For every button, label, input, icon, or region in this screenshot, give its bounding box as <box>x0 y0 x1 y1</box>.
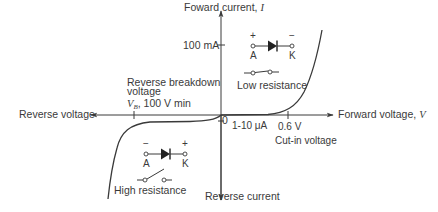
origin-label: 0 <box>222 115 228 126</box>
breakdown-label-line2: voltage <box>127 86 161 97</box>
forward-diode-symbol <box>251 41 294 52</box>
forward-anode-polarity: + <box>250 30 256 41</box>
cut-in-voltage-label: Cut-in voltage <box>275 135 337 146</box>
forward-voltage-label: Forward voltage, V <box>338 109 426 120</box>
reverse-anode-polarity: − <box>143 138 149 149</box>
reverse-cathode-label: K <box>182 158 189 169</box>
reverse-current-label: Reverse current <box>205 191 280 202</box>
reverse-diode-symbol <box>144 149 187 160</box>
cut-in-value-label: 0.6 V <box>278 121 301 132</box>
breakdown-value-label: VB, 100 V min <box>127 98 191 113</box>
breakdown-value: , 100 V min <box>138 97 191 109</box>
diode-iv-diagram: Foward current, I Reverse current Revers… <box>0 0 438 212</box>
current-symbol: I <box>260 2 264 13</box>
forward-current-label: Foward current, I <box>184 2 264 13</box>
voltage-symbol: V <box>419 109 425 120</box>
open-switch-icon <box>137 169 172 182</box>
forward-voltage-text: Forward voltage, <box>338 108 416 120</box>
forward-anode-label: A <box>250 50 257 61</box>
iv-graph <box>0 0 438 212</box>
forward-cathode-polarity: − <box>289 30 295 41</box>
reverse-cathode-polarity: + <box>182 138 188 149</box>
reverse-voltage-label: Reverse voltage <box>19 109 95 120</box>
closed-switch-icon <box>244 70 279 75</box>
leakage-current-label: 1-10 μA <box>232 120 267 131</box>
reverse-anode-label: A <box>143 158 150 169</box>
high-resistance-label: High resistance <box>114 185 186 196</box>
forward-cathode-label: K <box>289 50 296 61</box>
low-resistance-label: Low resistance <box>237 80 307 91</box>
forward-current-text: Foward current, <box>184 1 258 13</box>
forward-current-tick-label: 100 mA <box>183 40 219 51</box>
